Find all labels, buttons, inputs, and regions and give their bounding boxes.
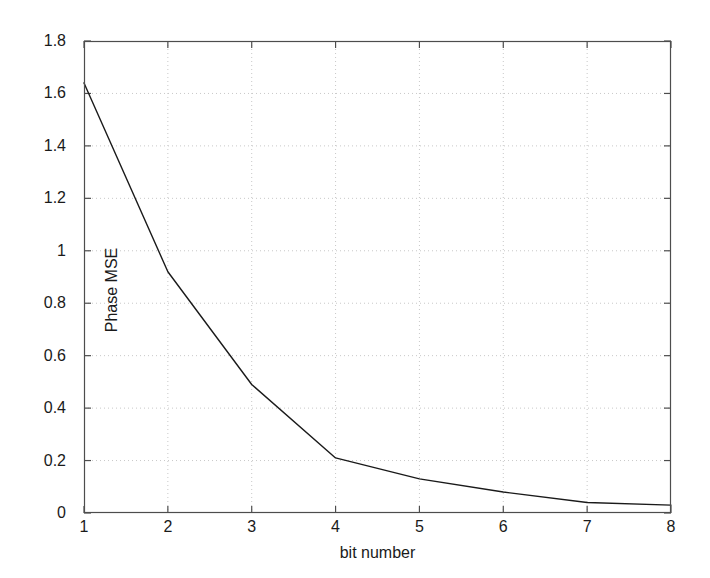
x-tick-label: 6 (499, 519, 508, 535)
y-tick-label: 1.8 (44, 33, 66, 49)
y-tick-label: 1 (57, 243, 66, 259)
y-tick-label: 0.8 (44, 295, 66, 311)
x-tick-label: 1 (80, 519, 89, 535)
y-tick-label: 1.2 (44, 190, 66, 206)
x-tick-label: 7 (583, 519, 592, 535)
x-tick-label: 5 (415, 519, 424, 535)
y-tick-label: 0 (57, 505, 66, 521)
y-tick-label: 0.2 (44, 453, 66, 469)
figure-canvas: 00.20.40.60.811.21.41.61.8 Phase MSE 123… (0, 0, 710, 578)
x-axis-tick-labels: 12345678 (84, 519, 671, 539)
x-tick-label: 2 (163, 519, 172, 535)
x-tick-label: 8 (667, 519, 676, 535)
plot-svg (84, 41, 671, 513)
y-tick-label: 0.4 (44, 400, 66, 416)
y-axis-tick-labels: 00.20.40.60.811.21.41.61.8 (0, 41, 76, 513)
y-tick-label: 0.6 (44, 348, 66, 364)
x-gridlines (168, 41, 587, 513)
y-tick-label: 1.4 (44, 138, 66, 154)
x-tick-label: 4 (331, 519, 340, 535)
x-axis-label: bit number (84, 544, 671, 562)
y-tick-label: 1.6 (44, 85, 66, 101)
plot-axes: Phase MSE (84, 41, 671, 513)
y-axis-label: Phase MSE (103, 210, 121, 370)
x-tick-label: 3 (247, 519, 256, 535)
